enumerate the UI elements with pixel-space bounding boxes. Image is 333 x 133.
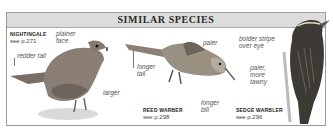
annotation-paler-more-tawny: paler, more tawny <box>250 64 274 85</box>
annotation-paler: paler <box>203 39 217 46</box>
species-name: SEDGE WARBLER <box>236 107 283 114</box>
annotation-longer-bill: longer bill <box>201 99 223 113</box>
sedge-warbler-illustration <box>278 12 330 132</box>
species-name: NIGHTINGALE <box>10 31 47 38</box>
species-name: REED WARBER <box>143 107 183 114</box>
reed-warbler-illustration <box>125 36 235 86</box>
page-reference: see p.271 <box>10 38 47 45</box>
annotation-longer-tail: longer tail <box>137 63 157 77</box>
page-reference: see p.298 <box>143 114 183 121</box>
page-reference: see p.296 <box>236 114 283 121</box>
pointer-line <box>133 50 134 68</box>
annotation-bolder-stripe: bolder stripe over eye <box>239 35 285 49</box>
species-label-reed-warbler: REED WARBER see p.298 <box>143 107 183 121</box>
species-label-sedge-warbler: SEDGE WARBLER see p.296 <box>236 107 283 121</box>
annotation-redder-tail: redder tail <box>17 52 46 59</box>
pointer-line <box>14 58 15 66</box>
annotation-larger: larger <box>103 89 120 96</box>
species-label-nightingale: NIGHTINGALE see p.271 <box>10 31 47 45</box>
annotation-plainer-face: plainer face <box>56 30 82 44</box>
